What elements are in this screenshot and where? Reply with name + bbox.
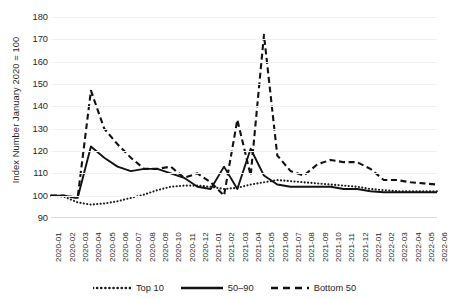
x-axis-tick-label: 2021-01 xyxy=(214,232,223,262)
legend-item[interactable]: 50–90 xyxy=(181,284,254,293)
x-axis-tick-label: 2021-10 xyxy=(334,232,343,262)
x-axis-tick-label: 2020-06 xyxy=(121,232,130,262)
x-axis-tick-label: 2021-03 xyxy=(241,232,250,262)
chart-legend: Top 1050–90Bottom 50 xyxy=(0,284,449,293)
legend-label: 50–90 xyxy=(228,284,254,293)
x-axis-tick-label: 2021-09 xyxy=(321,232,330,262)
x-axis-tick-label: 2020-03 xyxy=(81,232,90,262)
x-axis-tick-label: 2021-07 xyxy=(294,232,303,262)
x-axis-tick-label: 2021-06 xyxy=(281,232,290,262)
x-axis-tick-label: 2020-07 xyxy=(134,232,143,262)
x-axis-tick-label: 2022-06 xyxy=(440,232,449,262)
x-axis-tick-label: 2020-05 xyxy=(108,232,117,262)
x-axis-tick-label: 2020-02 xyxy=(68,232,77,262)
x-axis-tick-label: 2022-04 xyxy=(414,232,423,262)
legend-swatch-dashed xyxy=(271,284,309,292)
x-axis-tick-label: 2022-03 xyxy=(400,232,409,262)
x-axis-tick-label: 2021-02 xyxy=(227,232,236,262)
x-axis-tick-label: 2021-11 xyxy=(347,233,356,262)
x-axis-tick-label: 2020-01 xyxy=(54,232,63,262)
x-axis-tick-label: 2020-08 xyxy=(148,232,157,262)
legend-label: Top 10 xyxy=(136,284,164,293)
legend-swatch-dotted xyxy=(93,284,131,292)
x-axis-tick-label: 2020-04 xyxy=(94,232,103,262)
x-axis-tick-label: 2020-11 xyxy=(188,233,197,262)
x-axis-tick-label: 2021-04 xyxy=(254,232,263,262)
x-axis-tick-label: 2022-05 xyxy=(427,232,436,262)
x-axis-tick-label: 2022-02 xyxy=(387,232,396,262)
x-axis-tick-labels: 2020-012020-022020-032020-042020-052020-… xyxy=(0,0,449,299)
x-axis-tick-label: 2021-08 xyxy=(307,232,316,262)
x-axis-tick-label: 2020-12 xyxy=(201,232,210,262)
x-axis-tick-label: 2021-05 xyxy=(267,232,276,262)
x-axis-tick-label: 2021-12 xyxy=(361,232,370,262)
line-chart: Index Number January 2020 = 100 90100110… xyxy=(0,0,449,299)
legend-item[interactable]: Top 10 xyxy=(93,284,164,293)
x-axis-tick-label: 2022-01 xyxy=(374,232,383,262)
legend-swatch-solid xyxy=(181,284,223,292)
x-axis-tick-label: 2020-10 xyxy=(174,232,183,262)
legend-label: Bottom 50 xyxy=(314,284,356,293)
legend-item[interactable]: Bottom 50 xyxy=(271,284,356,293)
x-axis-tick-label: 2020-09 xyxy=(161,232,170,262)
